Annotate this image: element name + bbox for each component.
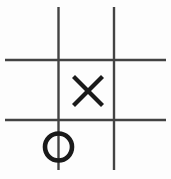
tic-tac-toe-board (0, 0, 171, 179)
board-svg (0, 0, 171, 179)
